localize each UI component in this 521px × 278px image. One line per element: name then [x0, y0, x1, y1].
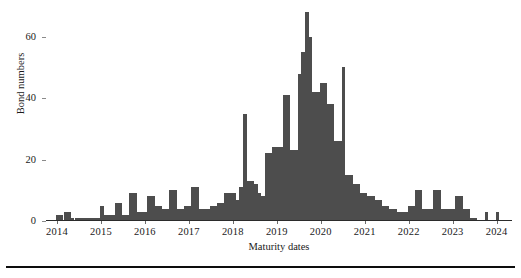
- x-axis-title: Maturity dates: [46, 241, 512, 252]
- x-tick-label: 2022: [386, 226, 432, 237]
- y-tick: [42, 37, 46, 38]
- bottom-rule: [6, 266, 515, 268]
- y-tick: [42, 221, 46, 222]
- x-tick: [321, 221, 322, 224]
- x-tick: [145, 221, 146, 224]
- x-tick: [409, 221, 410, 224]
- x-tick: [233, 221, 234, 224]
- x-tick-label: 2014: [34, 226, 80, 237]
- x-tick-label: 2016: [122, 226, 168, 237]
- x-tick: [365, 221, 366, 224]
- x-tick-label: 2015: [78, 226, 124, 237]
- y-tick-label: 0: [0, 215, 36, 226]
- x-tick-label: 2023: [430, 226, 476, 237]
- x-tick: [57, 221, 58, 224]
- bars-layer: [46, 6, 512, 221]
- figure: 0204060 20142015201620172018201920202021…: [0, 0, 521, 278]
- x-tick: [189, 221, 190, 224]
- x-tick-label: 2021: [342, 226, 388, 237]
- x-tick: [101, 221, 102, 224]
- y-tick-label: 20: [0, 154, 36, 165]
- y-axis-title: Bond numbers: [15, 24, 26, 144]
- y-tick: [42, 98, 46, 99]
- plot-area: [46, 6, 512, 221]
- x-tick-label: 2018: [210, 226, 256, 237]
- x-tick-label: 2017: [166, 226, 212, 237]
- x-tick: [277, 221, 278, 224]
- x-tick-label: 2019: [254, 226, 300, 237]
- x-tick: [453, 221, 454, 224]
- x-tick-label: 2024: [474, 226, 520, 237]
- x-tick-label: 2020: [298, 226, 344, 237]
- y-tick: [42, 160, 46, 161]
- x-axis-line: [46, 220, 512, 221]
- x-tick: [497, 221, 498, 224]
